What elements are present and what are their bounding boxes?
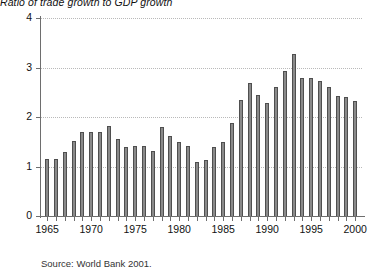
x-tick-1966	[56, 217, 57, 221]
x-tick-1981	[188, 217, 189, 221]
x-tick-1992	[285, 217, 286, 221]
x-axis-label-1985: 1985	[211, 224, 234, 235]
x-tick-1980	[179, 217, 180, 221]
x-tick-1978	[162, 217, 163, 221]
x-tick-1990	[267, 217, 268, 221]
bar-1988	[248, 83, 252, 216]
bar-1967	[63, 152, 67, 216]
bar-1993	[292, 54, 296, 216]
x-axis-label-2000: 2000	[344, 224, 367, 235]
x-tick-1995	[311, 217, 312, 221]
bar-1995	[309, 78, 313, 216]
bar-1989	[256, 95, 260, 216]
bar-1975	[133, 146, 137, 216]
bar-1970	[89, 132, 93, 216]
x-tick-1977	[153, 217, 154, 221]
x-axis-label-1980: 1980	[167, 224, 190, 235]
chart-figure: Ratio of trade growth to GDP growth 0123…	[0, 0, 373, 277]
x-tick-1991	[276, 217, 277, 221]
x-axis-label-1970: 1970	[79, 224, 102, 235]
x-tick-1971	[100, 217, 101, 221]
x-tick-1997	[329, 217, 330, 221]
x-tick-1968	[74, 217, 75, 221]
bar-series-group	[0, 0, 373, 216]
x-tick-1994	[302, 217, 303, 221]
x-axis-label-1965: 1965	[35, 224, 58, 235]
bar-1990	[265, 103, 269, 216]
y-tick-0	[36, 216, 41, 217]
bar-1968	[72, 141, 76, 216]
source-note: Source: World Bank 2001.	[41, 258, 152, 269]
x-tick-1965	[47, 217, 48, 221]
bar-1980	[177, 142, 181, 216]
x-tick-1973	[118, 217, 119, 221]
x-tick-1986	[232, 217, 233, 221]
bar-1979	[168, 136, 172, 216]
x-tick-1969	[82, 217, 83, 221]
x-axis-label-1995: 1995	[300, 224, 323, 235]
bar-1965	[45, 159, 49, 216]
bar-1997	[327, 87, 331, 216]
x-axis-line	[40, 216, 365, 217]
bar-1981	[186, 146, 190, 216]
bar-1998	[336, 96, 340, 216]
bar-1971	[98, 132, 102, 216]
x-tick-1982	[197, 217, 198, 221]
x-tick-2000	[355, 217, 356, 221]
x-tick-1984	[214, 217, 215, 221]
bar-1974	[124, 147, 128, 216]
bar-1984	[212, 147, 216, 216]
x-tick-1970	[91, 217, 92, 221]
x-tick-1999	[346, 217, 347, 221]
bar-1976	[142, 146, 146, 216]
x-tick-1972	[109, 217, 110, 221]
x-tick-1998	[338, 217, 339, 221]
x-tick-1967	[65, 217, 66, 221]
bar-1977	[151, 151, 155, 216]
x-axis-label-1975: 1975	[123, 224, 146, 235]
bar-1991	[274, 87, 278, 216]
x-tick-1975	[135, 217, 136, 221]
bar-1999	[344, 97, 348, 216]
bar-1986	[230, 123, 234, 216]
bar-2000	[353, 101, 357, 216]
bar-1996	[318, 81, 322, 216]
bar-1978	[160, 127, 164, 216]
x-tick-1985	[223, 217, 224, 221]
bar-1982	[195, 162, 199, 216]
bar-1992	[283, 71, 287, 216]
bar-1994	[300, 78, 304, 216]
bar-1973	[116, 139, 120, 216]
x-tick-1993	[294, 217, 295, 221]
x-tick-1987	[241, 217, 242, 221]
x-tick-1979	[170, 217, 171, 221]
x-tick-1988	[250, 217, 251, 221]
bar-1983	[204, 160, 208, 216]
bar-1966	[54, 159, 58, 216]
x-tick-1996	[320, 217, 321, 221]
bar-1987	[239, 100, 243, 216]
bar-1985	[221, 142, 225, 216]
bar-1972	[107, 126, 111, 216]
x-axis-label-1990: 1990	[256, 224, 279, 235]
bar-1969	[80, 132, 84, 216]
x-tick-1976	[144, 217, 145, 221]
x-tick-1989	[258, 217, 259, 221]
x-tick-1983	[206, 217, 207, 221]
x-tick-1974	[126, 217, 127, 221]
